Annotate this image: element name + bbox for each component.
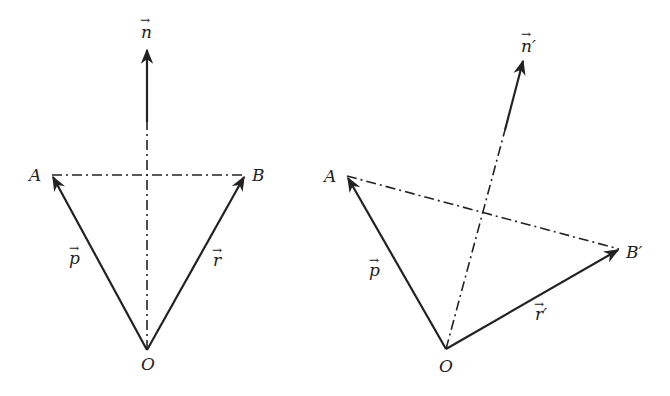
vector-r-arrow — [147, 177, 244, 350]
vector-p-arrow — [348, 178, 446, 349]
label-A: A — [27, 165, 41, 185]
arrow-over-n-icon: → — [140, 13, 150, 27]
label-B-prime: B′ — [625, 242, 642, 262]
arrow-over-n-prime-icon: → — [521, 27, 531, 41]
right-diagram: n′ → A B′ O p → r′ → — [322, 27, 642, 376]
vector-diagram: n → A B O p → r → n′ → A B′ O p → r′ → — [0, 0, 670, 396]
label-O: O — [439, 356, 453, 376]
segment-AB-prime — [347, 176, 619, 249]
arrow-over-p-icon: → — [69, 241, 79, 255]
arrow-over-p-icon: → — [369, 253, 379, 267]
arrow-over-r-icon: → — [212, 243, 222, 257]
vector-r-prime-arrow — [446, 250, 618, 349]
label-O: O — [141, 354, 155, 374]
label-A: A — [322, 166, 336, 186]
vector-p-arrow — [53, 177, 147, 350]
left-diagram: n → A B O p → r → — [27, 13, 265, 374]
arrow-over-r-prime-icon: → — [534, 297, 544, 311]
label-B: B — [251, 165, 265, 185]
normal-axis-dashed — [446, 130, 505, 349]
vector-n-prime-arrow — [505, 61, 523, 130]
